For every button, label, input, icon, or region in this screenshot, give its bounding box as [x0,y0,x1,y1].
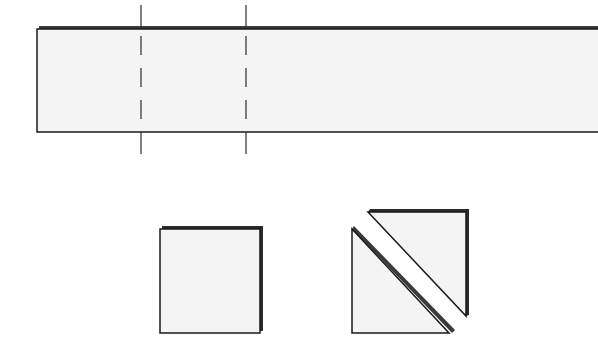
cut-square [160,226,263,333]
diagram-canvas [0,0,598,356]
fabric-strip [37,26,598,132]
